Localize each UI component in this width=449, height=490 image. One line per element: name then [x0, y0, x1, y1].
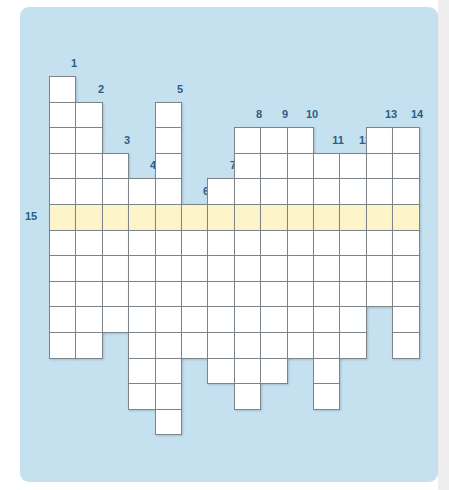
grid-cell-c3-r3[interactable]: [102, 153, 129, 179]
grid-cell-c9-r6[interactable]: [260, 230, 288, 256]
grid-cell-c13-r5[interactable]: [366, 204, 393, 231]
grid-cell-c1-r6[interactable]: [49, 230, 76, 256]
grid-cell-c12-r5[interactable]: [339, 204, 367, 231]
grid-cell-c2-r7[interactable]: [75, 255, 103, 282]
grid-cell-c11-r5[interactable]: [313, 204, 340, 231]
grid-cell-c10-r3[interactable]: [287, 153, 314, 179]
grid-cell-c2-r10[interactable]: [75, 332, 103, 359]
grid-cell-c10-r2[interactable]: [287, 127, 314, 154]
grid-cell-c12-r10[interactable]: [339, 332, 367, 359]
grid-cell-c13-r6[interactable]: [366, 230, 393, 256]
grid-cell-c4-r4[interactable]: [128, 178, 156, 205]
grid-cell-c4-r6[interactable]: [128, 230, 156, 256]
grid-cell-c10-r6[interactable]: [287, 230, 314, 256]
grid-cell-c11-r3[interactable]: [313, 153, 340, 179]
grid-cell-c10-r10[interactable]: [287, 332, 314, 359]
grid-cell-c9-r8[interactable]: [260, 281, 288, 307]
grid-cell-c10-r4[interactable]: [287, 178, 314, 205]
grid-cell-c12-r9[interactable]: [339, 306, 367, 333]
grid-cell-c3-r7[interactable]: [102, 255, 129, 282]
grid-cell-c9-r9[interactable]: [260, 306, 288, 333]
grid-cell-c5-r9[interactable]: [155, 306, 182, 333]
grid-cell-c12-r8[interactable]: [339, 281, 367, 307]
grid-cell-c7-r4[interactable]: [207, 178, 235, 205]
grid-cell-c2-r5[interactable]: [75, 204, 103, 231]
grid-cell-c1-r7[interactable]: [49, 255, 76, 282]
grid-cell-c1-r9[interactable]: [49, 306, 76, 333]
grid-cell-c14-r3[interactable]: [392, 153, 420, 179]
grid-cell-c7-r8[interactable]: [207, 281, 235, 307]
grid-cell-c4-r12[interactable]: [128, 383, 156, 410]
grid-cell-c10-r5[interactable]: [287, 204, 314, 231]
grid-cell-c9-r10[interactable]: [260, 332, 288, 359]
grid-cell-c1-r2[interactable]: [49, 127, 76, 154]
grid-cell-c8-r9[interactable]: [234, 306, 261, 333]
grid-cell-c8-r12[interactable]: [234, 383, 261, 410]
grid-cell-c7-r9[interactable]: [207, 306, 235, 333]
grid-cell-c4-r10[interactable]: [128, 332, 156, 359]
grid-cell-c7-r11[interactable]: [207, 358, 235, 384]
grid-cell-c14-r7[interactable]: [392, 255, 420, 282]
grid-cell-c13-r3[interactable]: [366, 153, 393, 179]
grid-cell-c11-r8[interactable]: [313, 281, 340, 307]
grid-cell-c5-r13[interactable]: [155, 409, 182, 435]
grid-cell-c5-r4[interactable]: [155, 178, 182, 205]
grid-cell-c6-r7[interactable]: [181, 255, 208, 282]
grid-cell-c2-r9[interactable]: [75, 306, 103, 333]
grid-cell-c5-r7[interactable]: [155, 255, 182, 282]
grid-cell-c8-r10[interactable]: [234, 332, 261, 359]
grid-cell-c14-r2[interactable]: [392, 127, 420, 154]
grid-cell-c5-r3[interactable]: [155, 153, 182, 179]
grid-cell-c13-r7[interactable]: [366, 255, 393, 282]
grid-cell-c10-r8[interactable]: [287, 281, 314, 307]
grid-cell-c11-r11[interactable]: [313, 358, 340, 384]
grid-cell-c9-r3[interactable]: [260, 153, 288, 179]
grid-cell-c8-r8[interactable]: [234, 281, 261, 307]
grid-cell-c8-r11[interactable]: [234, 358, 261, 384]
grid-cell-c14-r4[interactable]: [392, 178, 420, 205]
grid-cell-c11-r10[interactable]: [313, 332, 340, 359]
grid-cell-c8-r6[interactable]: [234, 230, 261, 256]
grid-cell-c1-r1[interactable]: [49, 102, 76, 128]
grid-cell-c5-r6[interactable]: [155, 230, 182, 256]
grid-cell-c14-r10[interactable]: [392, 332, 420, 359]
grid-cell-c4-r9[interactable]: [128, 306, 156, 333]
grid-cell-c5-r2[interactable]: [155, 127, 182, 154]
grid-cell-c1-r4[interactable]: [49, 178, 76, 205]
grid-cell-c13-r2[interactable]: [366, 127, 393, 154]
grid-cell-c7-r7[interactable]: [207, 255, 235, 282]
grid-cell-c7-r6[interactable]: [207, 230, 235, 256]
grid-cell-c3-r6[interactable]: [102, 230, 129, 256]
grid-cell-c3-r8[interactable]: [102, 281, 129, 307]
grid-cell-c2-r2[interactable]: [75, 127, 103, 154]
grid-cell-c12-r3[interactable]: [339, 153, 367, 179]
grid-cell-c1-r0[interactable]: [49, 76, 76, 103]
grid-cell-c14-r5[interactable]: [392, 204, 420, 231]
grid-cell-c4-r8[interactable]: [128, 281, 156, 307]
grid-cell-c9-r5[interactable]: [260, 204, 288, 231]
grid-cell-c8-r7[interactable]: [234, 255, 261, 282]
grid-cell-c9-r7[interactable]: [260, 255, 288, 282]
grid-cell-c14-r6[interactable]: [392, 230, 420, 256]
grid-cell-c1-r10[interactable]: [49, 332, 76, 359]
grid-cell-c6-r8[interactable]: [181, 281, 208, 307]
grid-cell-c2-r8[interactable]: [75, 281, 103, 307]
grid-cell-c2-r4[interactable]: [75, 178, 103, 205]
grid-cell-c5-r8[interactable]: [155, 281, 182, 307]
grid-cell-c3-r4[interactable]: [102, 178, 129, 205]
grid-cell-c11-r4[interactable]: [313, 178, 340, 205]
grid-cell-c9-r11[interactable]: [260, 358, 288, 384]
grid-cell-c11-r9[interactable]: [313, 306, 340, 333]
grid-cell-c3-r5[interactable]: [102, 204, 129, 231]
grid-cell-c4-r7[interactable]: [128, 255, 156, 282]
grid-cell-c5-r11[interactable]: [155, 358, 182, 384]
grid-cell-c5-r5[interactable]: [155, 204, 182, 231]
grid-cell-c7-r10[interactable]: [207, 332, 235, 359]
grid-cell-c11-r12[interactable]: [313, 383, 340, 410]
grid-cell-c2-r3[interactable]: [75, 153, 103, 179]
grid-cell-c12-r4[interactable]: [339, 178, 367, 205]
grid-cell-c6-r5[interactable]: [181, 204, 208, 231]
grid-cell-c14-r8[interactable]: [392, 281, 420, 307]
grid-cell-c13-r8[interactable]: [366, 281, 393, 307]
grid-cell-c12-r6[interactable]: [339, 230, 367, 256]
